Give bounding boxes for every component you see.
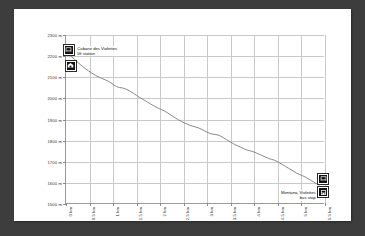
poi-label-line2: bus stop	[281, 195, 316, 200]
y-axis-tick-label: 2300 m	[47, 33, 62, 38]
poi-label-line2: lift station	[77, 51, 117, 56]
x-axis-tick	[66, 203, 67, 206]
elevation-chart-card: 2300 m2200 m2100 m2000 m1900 m1800 m1700…	[14, 9, 351, 221]
bus-stop-icon	[320, 189, 327, 196]
x-axis-tick	[278, 203, 279, 206]
y-axis-tick-label: 2000 m	[47, 96, 62, 101]
x-axis-tick	[113, 203, 114, 206]
x-axis-tick-label: 2 km	[162, 207, 167, 216]
x-axis-tick	[207, 203, 208, 206]
x-axis-tick-label: 4 km	[256, 207, 261, 216]
x-axis-tick	[160, 203, 161, 206]
y-axis-tick-label: 1700 m	[47, 159, 62, 164]
x-axis-tick	[325, 203, 326, 206]
y-axis-tick-label: 2200 m	[47, 54, 62, 59]
lift-station-icon	[320, 175, 327, 182]
x-axis-tick-label: 0.5 km	[91, 207, 96, 220]
y-axis-tick-label: 2100 m	[47, 75, 62, 80]
x-axis-tick	[184, 203, 185, 206]
poi-label-montana-violettes-bus-stop: Montana, Violettesbus stop	[281, 190, 317, 201]
x-axis-tick-label: 0 km	[68, 207, 73, 216]
poi-marker-cabane-des-violettes[interactable]: Cabane des Violetteslift station	[64, 45, 74, 55]
y-axis-tick-label: 1900 m	[47, 117, 62, 122]
poi-marker-mountain-hut[interactable]	[66, 61, 76, 71]
lift-station-icon	[65, 46, 72, 53]
x-axis-tick	[254, 203, 255, 206]
x-axis-tick-label: 5.5 km	[327, 207, 332, 220]
poi-label-cabane-des-violettes: Cabane des Violetteslift station	[77, 46, 118, 57]
x-axis-tick-label: 1 km	[115, 207, 120, 216]
y-axis-tick-label: 1500 m	[47, 202, 62, 207]
poi-marker-montana-violettes-bus-stop[interactable]: Montana, Violettesbus stop	[318, 187, 328, 197]
mountain-hut-icon	[67, 62, 74, 69]
x-axis-tick-label: 3.5 km	[232, 207, 237, 220]
x-axis-tick	[231, 203, 232, 206]
x-axis-tick-label: 3 km	[209, 207, 214, 216]
poi-marker-montana-violettes-lift[interactable]	[318, 174, 328, 184]
y-axis-tick-label: 1600 m	[47, 180, 62, 185]
elevation-plot-area: 2300 m2200 m2100 m2000 m1900 m1800 m1700…	[65, 35, 324, 204]
page-background: 2300 m2200 m2100 m2000 m1900 m1800 m1700…	[0, 0, 365, 236]
x-axis-tick-label: 2.5 km	[185, 207, 190, 220]
x-axis-tick-label: 1.5 km	[138, 207, 143, 220]
x-axis-tick	[137, 203, 138, 206]
elevation-profile-line	[66, 35, 324, 203]
x-axis-tick	[90, 203, 91, 206]
x-axis-tick-label: 5 km	[303, 207, 308, 216]
x-axis-tick	[301, 203, 302, 206]
y-axis-tick-label: 1800 m	[47, 138, 62, 143]
x-axis-tick-label: 4.5 km	[280, 207, 285, 220]
